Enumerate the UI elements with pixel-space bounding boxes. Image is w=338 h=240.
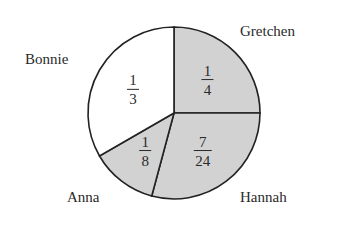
label-bonnie: Bonnie <box>25 51 68 68</box>
svg-text:3: 3 <box>129 91 137 107</box>
svg-text:1: 1 <box>204 63 212 79</box>
svg-text:1: 1 <box>129 72 137 88</box>
label-anna: Anna <box>67 189 100 206</box>
svg-text:1: 1 <box>141 134 149 150</box>
svg-text:4: 4 <box>204 82 212 98</box>
label-hannah: Hannah <box>240 189 287 206</box>
svg-text:24: 24 <box>195 153 211 169</box>
svg-text:7: 7 <box>199 134 207 150</box>
pie-slices <box>88 27 260 199</box>
svg-text:8: 8 <box>141 153 149 169</box>
label-gretchen: Gretchen <box>240 23 295 40</box>
